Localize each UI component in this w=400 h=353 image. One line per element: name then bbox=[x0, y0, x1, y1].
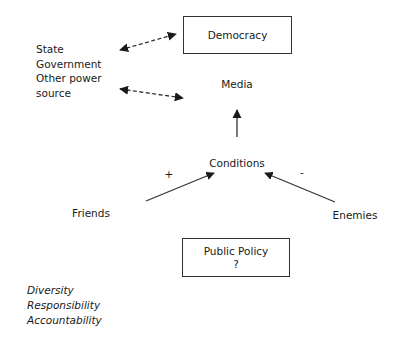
value-accountability: Accountability bbox=[27, 313, 102, 328]
minus-sign: - bbox=[300, 165, 304, 180]
media-label: Media bbox=[221, 77, 253, 92]
power-source-government: Government bbox=[36, 57, 102, 72]
democracy-box: Democracy bbox=[183, 16, 292, 54]
public-policy-box: Public Policy ? bbox=[182, 238, 290, 277]
value-responsibility: Responsibility bbox=[27, 298, 102, 313]
public-policy-label: Public Policy bbox=[204, 245, 269, 258]
democracy-label: Democracy bbox=[208, 29, 268, 42]
plus-sign: + bbox=[165, 167, 174, 182]
dashed-arrow-to-media bbox=[120, 89, 183, 98]
power-sources-list: State Government Other power source bbox=[36, 42, 102, 100]
friends-label: Friends bbox=[72, 206, 110, 221]
power-source-source: source bbox=[36, 86, 102, 101]
dashed-arrow-to-democracy bbox=[120, 34, 176, 50]
arrow-friends-to-conditions bbox=[146, 173, 214, 201]
power-source-other: Other power bbox=[36, 71, 102, 86]
public-policy-question: ? bbox=[233, 258, 239, 271]
power-source-state: State bbox=[36, 42, 102, 57]
value-diversity: Diversity bbox=[27, 283, 102, 298]
values-list: Diversity Responsibility Accountability bbox=[27, 283, 102, 328]
enemies-label: Enemies bbox=[333, 208, 378, 223]
conditions-label: Conditions bbox=[209, 156, 265, 171]
